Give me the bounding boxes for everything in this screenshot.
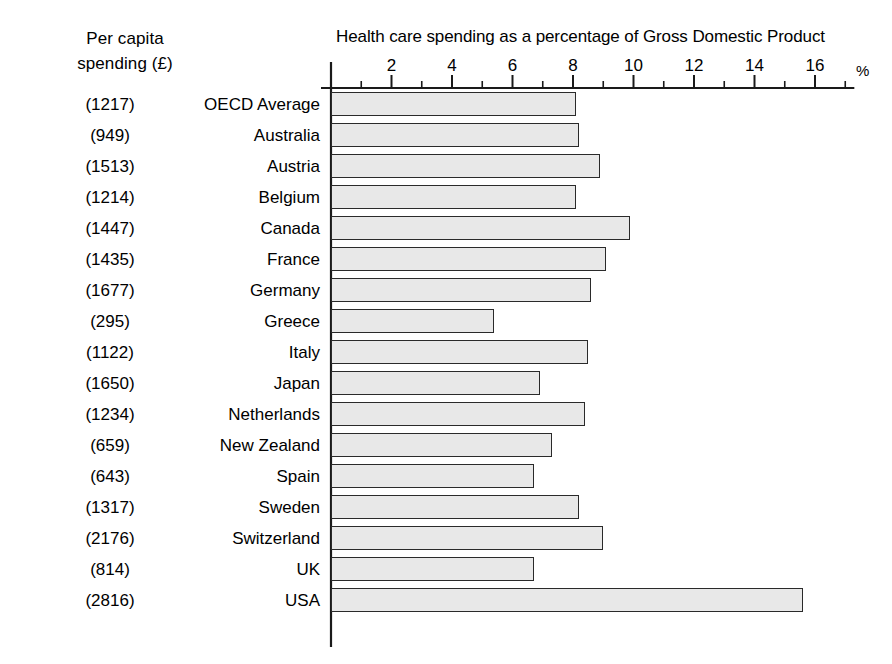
- country-label: Japan: [150, 372, 320, 396]
- country-label: Greece: [150, 310, 320, 334]
- chart-row: (1447)Canada: [0, 216, 892, 247]
- chart-row: (1677)Germany: [0, 278, 892, 309]
- chart-row: (1122)Italy: [0, 340, 892, 371]
- chart-row: (1435)France: [0, 247, 892, 278]
- bar: [331, 185, 576, 209]
- country-label: Canada: [150, 217, 320, 241]
- chart-row: (1214)Belgium: [0, 185, 892, 216]
- bar: [331, 340, 588, 364]
- chart-row: (295)Greece: [0, 309, 892, 340]
- country-label: Australia: [150, 124, 320, 148]
- bar: [331, 309, 494, 333]
- bar: [331, 402, 585, 426]
- chart-row: (1317)Sweden: [0, 495, 892, 526]
- chart-row: (1513)Austria: [0, 154, 892, 185]
- bar: [331, 433, 552, 457]
- country-label: Switzerland: [150, 527, 320, 551]
- country-label: Spain: [150, 465, 320, 489]
- country-label: New Zealand: [150, 434, 320, 458]
- bar: [331, 216, 630, 240]
- country-label: UK: [150, 558, 320, 582]
- country-label: France: [150, 248, 320, 272]
- country-label: USA: [150, 589, 320, 613]
- country-label: OECD Average: [150, 93, 320, 117]
- country-label: Italy: [150, 341, 320, 365]
- chart-row: (2816)USA: [0, 588, 892, 619]
- bar: [331, 92, 576, 116]
- country-label: Belgium: [150, 186, 320, 210]
- bar: [331, 371, 540, 395]
- chart-row: (1650)Japan: [0, 371, 892, 402]
- bar: [331, 557, 534, 581]
- health-spending-bar-chart: Per capita spending (£) Health care spen…: [0, 0, 892, 664]
- country-label: Netherlands: [150, 403, 320, 427]
- country-label: Sweden: [150, 496, 320, 520]
- bar: [331, 464, 534, 488]
- chart-row: (949)Australia: [0, 123, 892, 154]
- bar: [331, 154, 600, 178]
- country-label: Austria: [150, 155, 320, 179]
- chart-row: (2176)Switzerland: [0, 526, 892, 557]
- bar: [331, 247, 606, 271]
- chart-row: (1234)Netherlands: [0, 402, 892, 433]
- bar: [331, 495, 579, 519]
- chart-row: (643)Spain: [0, 464, 892, 495]
- bar: [331, 526, 603, 550]
- bar: [331, 588, 803, 612]
- chart-rows: (1217)OECD Average(949)Australia(1513)Au…: [0, 0, 892, 664]
- chart-row: (659)New Zealand: [0, 433, 892, 464]
- bar: [331, 278, 591, 302]
- country-label: Germany: [150, 279, 320, 303]
- chart-row: (1217)OECD Average: [0, 92, 892, 123]
- bar: [331, 123, 579, 147]
- chart-row: (814)UK: [0, 557, 892, 588]
